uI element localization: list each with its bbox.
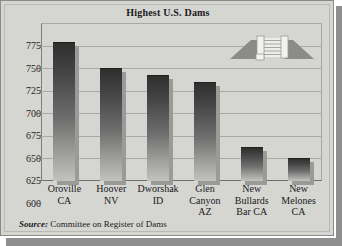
x-axis-tick-label-line: Dworshak — [135, 183, 182, 195]
source-label: Source: — [19, 219, 48, 229]
bar-fill — [194, 82, 216, 181]
x-axis-tick-label-line: New — [275, 183, 322, 195]
gridline — [41, 136, 322, 137]
y-axis-tick-label: 700 — [5, 107, 41, 118]
bar — [194, 82, 216, 181]
y-axis: 600625650675700725750775 — [1, 23, 41, 181]
y-axis-tick-label: 675 — [5, 130, 41, 141]
bar-fill — [53, 42, 75, 181]
gridline — [41, 113, 322, 114]
x-axis-tick-label-line: CA — [41, 195, 88, 207]
y-axis-tick-label: 625 — [5, 175, 41, 186]
panel-shadow-bottom — [6, 238, 342, 246]
x-axis-tick-label-line: Hoover — [88, 183, 135, 195]
bar — [53, 42, 75, 181]
chart-screenshot: Highest U.S. Dams 6006256506757007257507… — [0, 0, 342, 246]
x-axis-tick-label: NewBullardsBar CA — [228, 183, 275, 218]
x-axis-tick-label: GlenCanyonAZ — [182, 183, 229, 218]
y-axis-tick-label: 650 — [5, 152, 41, 163]
bar — [288, 158, 310, 181]
gridline — [41, 158, 322, 159]
gridline — [41, 91, 322, 92]
x-axis-tick-label-line: Bar CA — [228, 206, 275, 218]
chart-panel: Highest U.S. Dams 6006256506757007257507… — [0, 0, 334, 236]
x-axis-tick-label: OrovilleCA — [41, 183, 88, 206]
x-axis-tick-label-line: Canyon — [182, 195, 229, 207]
x-axis-tick-label-line: ID — [135, 195, 182, 207]
source-note: Source: Committee on Register of Dams — [19, 219, 167, 229]
y-axis-tick-label: 750 — [5, 62, 41, 73]
x-axis-tick-label-line: Oroville — [41, 183, 88, 195]
bar-fill — [241, 147, 263, 181]
x-axis-tick-label-line: New — [228, 183, 275, 195]
bar — [241, 147, 263, 181]
x-axis-tick-label-line: Melones — [275, 195, 322, 207]
panel-shadow-right — [336, 6, 342, 246]
y-axis-tick-label: 775 — [5, 40, 41, 51]
y-axis-tick-label: 725 — [5, 85, 41, 96]
source-value: Committee on Register of Dams — [48, 219, 167, 229]
x-axis-tick-label-line: Glen — [182, 183, 229, 195]
y-axis-tick-label: 600 — [5, 198, 41, 209]
gridline — [41, 68, 322, 69]
x-axis-tick-label-line: Bullards — [228, 195, 275, 207]
bar-fill — [100, 68, 122, 181]
bar — [147, 75, 169, 181]
x-axis-tick-label-line: AZ — [182, 206, 229, 218]
bar-fill — [288, 158, 310, 181]
x-axis-tick-label: HooverNV — [88, 183, 135, 206]
x-axis-tick-label-line: NV — [88, 195, 135, 207]
dam-illustration-icon — [229, 32, 315, 62]
x-axis-tick-label-line: CA — [275, 206, 322, 218]
chart-title: Highest U.S. Dams — [1, 7, 335, 18]
bar — [100, 68, 122, 181]
bar-fill — [147, 75, 169, 181]
x-axis-tick-label: NewMelonesCA — [275, 183, 322, 218]
x-axis-tick-label: DworshakID — [135, 183, 182, 206]
